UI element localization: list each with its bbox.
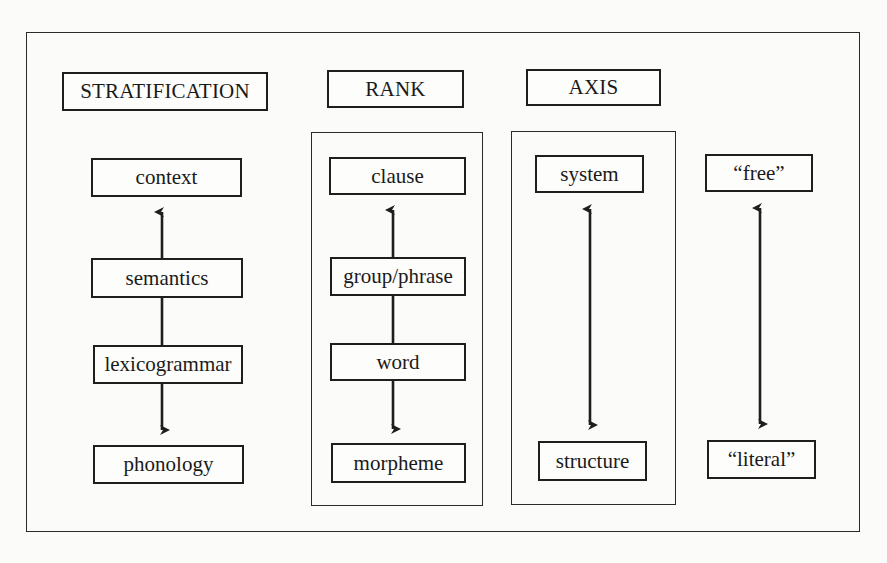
- node-semantics: semantics: [91, 258, 243, 298]
- node-word: word: [330, 343, 466, 381]
- node-structure: structure: [538, 441, 647, 481]
- node-context: context: [91, 158, 242, 197]
- heading-stratification: STRATIFICATION: [62, 72, 268, 111]
- node-morpheme: morpheme: [331, 443, 466, 483]
- node-literal: “literal”: [707, 440, 816, 479]
- node-system: system: [535, 155, 644, 193]
- node-free: “free”: [705, 154, 813, 192]
- node-group-phrase: group/phrase: [330, 257, 466, 296]
- node-lexicogrammar: lexicogrammar: [93, 345, 243, 384]
- node-clause: clause: [329, 157, 466, 195]
- node-phonology: phonology: [93, 445, 244, 484]
- heading-axis: AXIS: [526, 69, 661, 106]
- heading-rank: RANK: [327, 70, 464, 108]
